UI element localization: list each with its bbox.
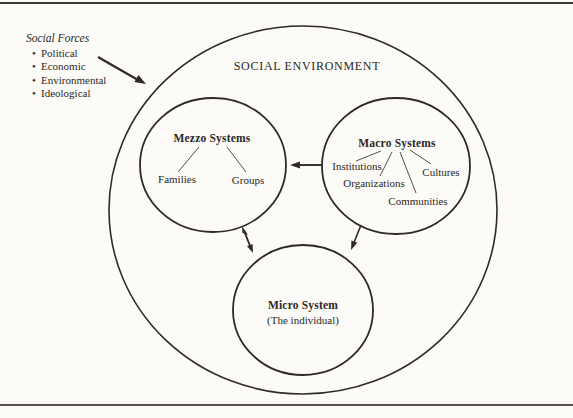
macro-to-micro-arrow <box>351 225 361 250</box>
mezzo-micro-double-arrow <box>242 226 253 253</box>
macro-connector-line <box>380 152 392 176</box>
social-environment-circle <box>109 26 497 394</box>
macro-child-label-communities: Communities <box>388 195 447 207</box>
macro-to-mezzo-arrow <box>290 162 322 169</box>
mezzo-child-label-families: Families <box>158 173 196 185</box>
mezzo-connector-line <box>178 147 199 172</box>
macro-child-label-organizations: Organizations <box>343 177 405 189</box>
systems-diagram: SOCIAL ENVIRONMENT Mezzo Systems Familie… <box>0 0 573 418</box>
macro-connector-line <box>410 150 431 164</box>
macro-title: Macro Systems <box>358 137 436 150</box>
mezzo-child-label-groups: Groups <box>232 174 264 186</box>
mezzo-title: Mezzo Systems <box>173 132 250 145</box>
bottom-rule <box>0 404 573 406</box>
social-environment-label: SOCIAL ENVIRONMENT <box>234 59 380 73</box>
mezzo-connector-line <box>227 147 246 172</box>
mezzo-circle <box>140 98 286 232</box>
micro-title: Micro System <box>268 299 338 312</box>
micro-subtitle: (The individual) <box>267 314 339 327</box>
diagram-page: Social Forces • Political • Economic • E… <box>0 0 573 418</box>
social-forces-arrow <box>98 57 146 84</box>
macro-child-label-cultures: Cultures <box>422 166 459 178</box>
macro-child-label-institutions: Institutions <box>332 160 382 172</box>
